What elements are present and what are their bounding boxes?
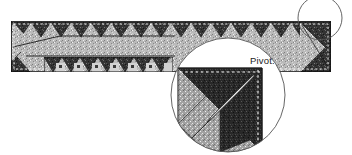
pieced-checker-band xyxy=(44,57,173,72)
diagram-canvas: Pivot. xyxy=(0,0,352,155)
pivot-label: Pivot. xyxy=(250,55,275,66)
quilting-diagram-svg: Pivot. xyxy=(0,0,352,155)
strip-right-corner-piecing xyxy=(300,22,331,72)
